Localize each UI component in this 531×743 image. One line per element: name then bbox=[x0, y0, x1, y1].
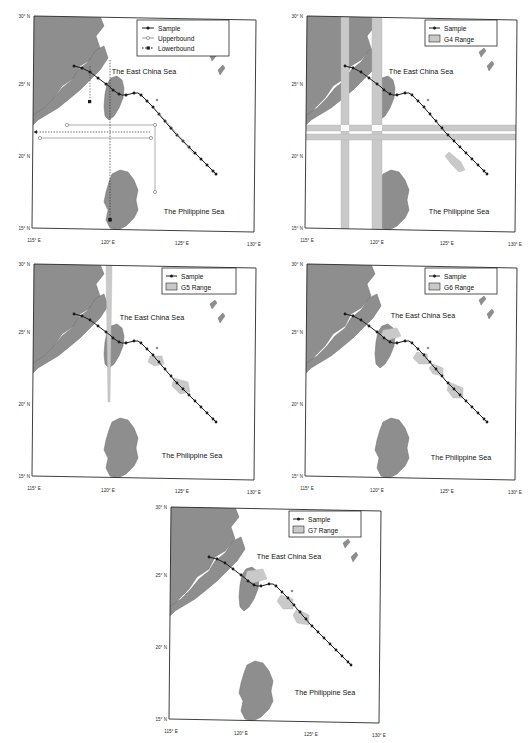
x-tick-120e: 120° E bbox=[370, 488, 384, 493]
y-tick-30n: 30° N bbox=[18, 14, 30, 19]
y-tick-15n: 15° N bbox=[291, 226, 303, 231]
panel-2: 30° N 25° N 20° N 15° N 115° E 120° E 12… bbox=[283, 4, 527, 250]
y-tick-30n: 30° N bbox=[155, 505, 167, 510]
legend-label-sample: Sample bbox=[444, 25, 467, 33]
philippine-sea-label: The Philippine Sea bbox=[162, 451, 222, 460]
x-tick-130e: 130° E bbox=[372, 733, 386, 738]
x-tick-115e: 115° E bbox=[27, 238, 41, 243]
panel-4: 30° N 25° N 20° N 15° N 115° E 120° E 12… bbox=[283, 252, 527, 498]
legend-label-g6-range: G6 Range bbox=[444, 284, 474, 292]
panel-3-map: 30° N 25° N 20° N 15° N 115° E 120° E 12… bbox=[4, 252, 266, 498]
legend-label-lowerbound: Lowerbound bbox=[158, 45, 195, 52]
y-tick-25n: 25° N bbox=[155, 573, 167, 578]
x-tick-120e: 120° E bbox=[370, 240, 384, 245]
legend: Sample Upperbound Lowerbound bbox=[137, 20, 229, 56]
x-tick-130e: 130° E bbox=[247, 242, 261, 247]
philippine-sea-label: The Philippine Sea bbox=[295, 688, 355, 697]
legend-label-sample: Sample bbox=[308, 516, 331, 524]
small-islet bbox=[156, 99, 159, 102]
east-china-sea-label: The East China Sea bbox=[257, 552, 321, 561]
panel-4-map: 30° N 25° N 20° N 15° N 115° E 120° E 12… bbox=[283, 252, 527, 498]
panel-2-map: 30° N 25° N 20° N 15° N 115° E 120° E 12… bbox=[283, 4, 527, 250]
philippine-sea-label: The Philippine Sea bbox=[431, 453, 491, 462]
legend: Sample G4 Range bbox=[425, 20, 497, 46]
legend-label-g5-range: G5 Range bbox=[181, 284, 211, 292]
legend-label-g7-range: G7 Range bbox=[308, 527, 338, 535]
legend: Sample G5 Range bbox=[162, 268, 236, 294]
y-tick-30n: 30° N bbox=[291, 262, 303, 267]
x-tick-120e: 120° E bbox=[101, 240, 115, 245]
east-china-sea-label: The East China Sea bbox=[112, 67, 176, 76]
panel-5-map: 30° N 25° N 20° N 15° N 115° E 120° E 12… bbox=[143, 495, 393, 741]
y-tick-15n: 15° N bbox=[291, 474, 303, 479]
philippine-sea-label: The Philippine Sea bbox=[164, 207, 224, 216]
panel-5: 30° N 25° N 20° N 15° N 115° E 120° E 12… bbox=[143, 495, 393, 741]
panel-1-map: 30° N 25° N 20° N 15° N 115° E 120° E 12… bbox=[4, 4, 266, 250]
small-islet bbox=[427, 347, 430, 350]
x-tick-125e: 125° E bbox=[440, 489, 454, 494]
y-tick-25n: 25° N bbox=[18, 330, 30, 335]
x-tick-125e: 125° E bbox=[304, 732, 318, 737]
legend-label-g4-range: G4 Range bbox=[444, 36, 474, 44]
x-tick-115e: 115° E bbox=[300, 238, 314, 243]
x-tick-125e: 125° E bbox=[175, 241, 189, 246]
y-tick-15n: 15° N bbox=[155, 717, 167, 722]
y-tick-15n: 15° N bbox=[18, 226, 30, 231]
x-tick-115e: 115° E bbox=[27, 486, 41, 491]
panel-1: 30° N 25° N 20° N 15° N 115° E 120° E 12… bbox=[4, 4, 266, 250]
y-tick-30n: 30° N bbox=[18, 262, 30, 267]
x-tick-115e: 115° E bbox=[164, 729, 178, 734]
x-tick-125e: 125° E bbox=[175, 489, 189, 494]
y-tick-15n: 15° N bbox=[18, 474, 30, 479]
y-tick-25n: 25° N bbox=[291, 82, 303, 87]
y-tick-20n: 20° N bbox=[18, 154, 30, 159]
legend-label-sample: Sample bbox=[158, 25, 181, 33]
x-tick-120e: 120° E bbox=[234, 731, 248, 736]
y-tick-25n: 25° N bbox=[291, 330, 303, 335]
east-china-sea-label: The East China Sea bbox=[391, 311, 455, 320]
x-tick-125e: 125° E bbox=[440, 241, 454, 246]
legend: Sample G6 Range bbox=[425, 268, 497, 294]
small-islet bbox=[156, 347, 159, 350]
small-islet bbox=[427, 99, 430, 102]
legend-label-sample: Sample bbox=[444, 273, 467, 281]
x-tick-115e: 115° E bbox=[300, 486, 314, 491]
typhoon-track-figure: 30° N 25° N 20° N 15° N 115° E 120° E 12… bbox=[0, 0, 531, 743]
y-tick-30n: 30° N bbox=[291, 14, 303, 19]
legend-label-sample: Sample bbox=[181, 273, 204, 281]
legend: Sample G7 Range bbox=[289, 511, 361, 537]
x-tick-120e: 120° E bbox=[101, 488, 115, 493]
philippine-sea-label: The Philippine Sea bbox=[429, 207, 489, 216]
east-china-sea-label: The East China Sea bbox=[389, 67, 453, 76]
y-tick-25n: 25° N bbox=[18, 82, 30, 87]
panel-3: 30° N 25° N 20° N 15° N 115° E 120° E 12… bbox=[4, 252, 266, 498]
east-china-sea-label: The East China Sea bbox=[120, 313, 184, 322]
y-tick-20n: 20° N bbox=[291, 402, 303, 407]
small-islet bbox=[291, 590, 294, 593]
y-tick-20n: 20° N bbox=[18, 402, 30, 407]
x-tick-130e: 130° E bbox=[508, 490, 522, 495]
x-tick-130e: 130° E bbox=[508, 242, 522, 247]
y-tick-20n: 20° N bbox=[155, 645, 167, 650]
y-tick-20n: 20° N bbox=[291, 154, 303, 159]
legend-label-upperbound: Upperbound bbox=[158, 35, 195, 43]
